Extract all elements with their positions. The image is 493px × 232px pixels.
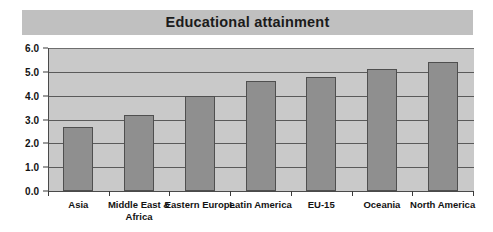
x-axis-tick-mark — [48, 191, 49, 196]
y-axis-tick-label: 4.0 — [25, 90, 39, 101]
bar — [124, 115, 154, 191]
bar — [63, 127, 93, 191]
y-axis-tick-label: 5.0 — [25, 66, 39, 77]
bar — [428, 62, 458, 191]
bars-layer — [48, 48, 473, 191]
bar — [246, 81, 276, 191]
bar — [367, 69, 397, 191]
page-title: Educational attainment — [166, 15, 330, 30]
x-axis-tick-mark — [473, 191, 474, 196]
y-axis-tick-label: 2.0 — [25, 138, 39, 149]
y-axis-tick-label: 1.0 — [25, 162, 39, 173]
y-axis-tick-label: 0.0 — [25, 186, 39, 197]
bar — [306, 77, 336, 191]
x-axis-tick-mark — [230, 191, 231, 196]
x-axis-tick-mark — [352, 191, 353, 196]
y-axis-tick-label: 6.0 — [25, 43, 39, 54]
x-axis-tick-mark — [169, 191, 170, 196]
x-axis-tick-label: North America — [407, 199, 479, 211]
bar — [185, 96, 215, 191]
x-axis: AsiaMiddle East & AfricaEastern EuropeLa… — [48, 191, 473, 232]
x-axis-tick-mark — [291, 191, 292, 196]
x-axis-tick-mark — [109, 191, 110, 196]
x-axis-tick-mark — [412, 191, 413, 196]
y-axis-tick-label: 3.0 — [25, 114, 39, 125]
bar-chart-figure: Educational attainment 6.05.04.03.02.01.… — [0, 0, 493, 232]
y-axis: 6.05.04.03.02.01.00.0 — [0, 0, 48, 232]
chart-title-banner: Educational attainment — [22, 10, 473, 35]
